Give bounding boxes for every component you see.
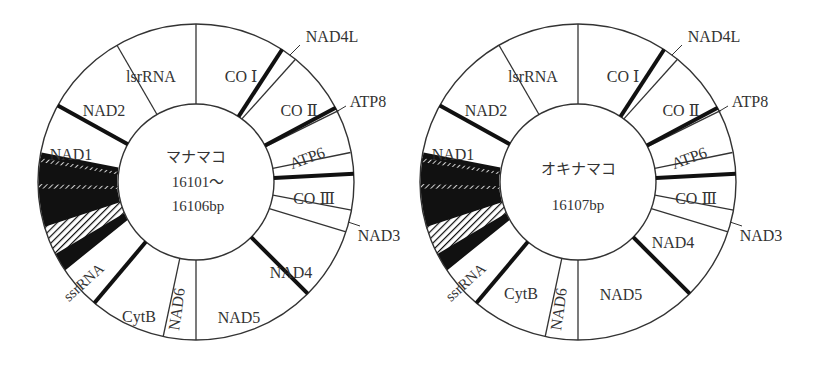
center-size-line2: 16106bp [172,198,225,214]
gene-label-co1: CO Ⅰ [225,68,258,85]
gene-label-lsrrna: lsrRNA [126,68,176,85]
gene-label-nad4l: NAD4L [306,28,358,45]
inner-ring [500,104,656,260]
gene-label-nad3: NAD3 [740,227,783,244]
gene-label-cytb: CytB [504,285,538,303]
gene-label-lsrrna: lsrRNA [508,68,558,85]
gene-label-co3: CO Ⅲ [675,190,717,207]
gene-label-nad4: NAD4 [652,234,695,251]
gene-label-nad2: NAD2 [83,102,126,119]
gene-label-nad1: NAD1 [432,146,475,163]
gene-label-co2: CO Ⅱ [280,102,317,119]
gene-label-atp6: ATP6 [287,144,327,172]
gene-label-cytb: CytB [122,308,156,326]
gene-label-nad1: NAD1 [50,146,93,163]
gene-label-nad6: NAD6 [165,287,188,332]
mitochondrial-genome-figure: マナマコ 16101～ 16106bp CO Ⅰ lsrRNA NAD2 NAD… [0,0,813,365]
gene-label-nad4: NAD4 [270,264,313,281]
control-region-block [38,153,127,271]
center-title: オキナマコ [541,161,616,177]
gene-label-co2: CO Ⅱ [662,102,699,119]
gene-label-co1: CO Ⅰ [607,68,640,85]
center-title: マナマコ [166,149,226,165]
genome-map-manamako: マナマコ 16101～ 16106bp CO Ⅰ lsrRNA NAD2 NAD… [38,24,400,340]
gene-label-co3: CO Ⅲ [293,190,335,207]
gene-label-nad5: NAD5 [600,286,643,303]
center-size-line1: 16107bp [552,197,605,213]
control-region-block [420,153,509,271]
gene-label-nad5: NAD5 [218,309,261,326]
genome-map-okinamako: オキナマコ 16107bp CO Ⅰ lsrRNA NAD2 NAD1 CO Ⅱ… [420,24,782,340]
gene-label-atp8: ATP8 [350,93,386,110]
gene-label-atp6: ATP6 [669,144,709,172]
gene-label-nad6: NAD6 [547,287,570,332]
gene-label-atp8: ATP8 [732,93,768,110]
gene-label-nad3: NAD3 [358,227,401,244]
center-size-line1: 16101～ [172,174,225,190]
gene-label-nad4l: NAD4L [688,28,740,45]
gene-label-nad2: NAD2 [465,102,508,119]
